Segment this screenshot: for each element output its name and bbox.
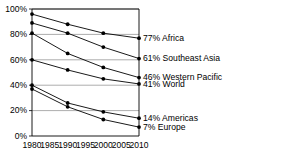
series-end-label-3: 41% World bbox=[143, 79, 185, 89]
series-marker-0 bbox=[30, 12, 34, 16]
y-axis-label: 80% bbox=[10, 29, 27, 39]
series-marker-1 bbox=[30, 21, 34, 25]
series-marker-2 bbox=[66, 52, 70, 56]
series-marker-5 bbox=[137, 125, 141, 129]
series-line-3 bbox=[32, 60, 139, 84]
series-marker-3 bbox=[137, 82, 141, 86]
y-axis-label: 100% bbox=[5, 4, 27, 14]
series-marker-4 bbox=[137, 116, 141, 120]
series-marker-1 bbox=[101, 45, 105, 49]
series-end-label-5: 7% Europe bbox=[143, 122, 186, 132]
x-axis-label: 1985 bbox=[40, 140, 59, 150]
series-marker-0 bbox=[137, 36, 141, 40]
x-axis-label: 2010 bbox=[130, 140, 149, 150]
y-axis-label: 20% bbox=[10, 105, 27, 115]
series-marker-2 bbox=[137, 76, 141, 80]
series-marker-5 bbox=[66, 105, 70, 109]
x-axis-label: 2000 bbox=[94, 140, 113, 150]
series-marker-5 bbox=[30, 87, 34, 91]
x-axis-label: 2005 bbox=[112, 140, 131, 150]
series-marker-3 bbox=[30, 58, 34, 62]
line-chart: 0%20%40%60%80%100%1980198519901995200020… bbox=[0, 0, 282, 158]
series-marker-1 bbox=[137, 57, 141, 61]
y-axis-label: 40% bbox=[10, 80, 27, 90]
series-end-label-1: 61% Southeast Asia bbox=[143, 53, 220, 63]
series-marker-4 bbox=[66, 101, 70, 105]
series-marker-0 bbox=[101, 31, 105, 35]
series-end-label-0: 77% Africa bbox=[143, 33, 184, 43]
series-marker-3 bbox=[101, 77, 105, 81]
x-axis-label: 1990 bbox=[58, 140, 77, 150]
series-line-5 bbox=[32, 89, 139, 127]
series-marker-0 bbox=[66, 22, 70, 26]
series-marker-2 bbox=[101, 66, 105, 70]
x-axis-label: 1995 bbox=[76, 140, 95, 150]
series-marker-4 bbox=[101, 110, 105, 114]
series-marker-1 bbox=[66, 31, 70, 35]
series-marker-4 bbox=[30, 83, 34, 87]
series-marker-2 bbox=[30, 31, 34, 35]
x-axis-label: 1980 bbox=[23, 140, 42, 150]
y-axis-label: 60% bbox=[10, 55, 27, 65]
series-marker-3 bbox=[66, 68, 70, 72]
series-marker-5 bbox=[101, 118, 105, 122]
chart-container: 0%20%40%60%80%100%1980198519901995200020… bbox=[0, 0, 282, 158]
